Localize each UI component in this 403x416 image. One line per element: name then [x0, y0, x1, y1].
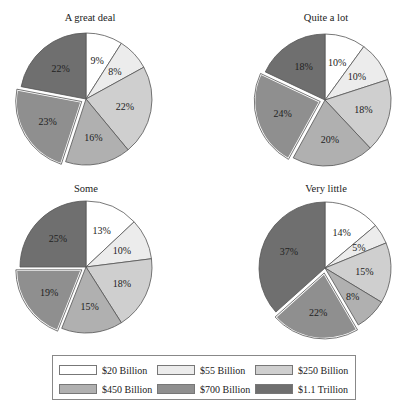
slice-label: 13% — [93, 225, 111, 236]
slice-label: 22% — [116, 101, 134, 112]
pie-some: 13%10%18%15%19%25% — [16, 201, 152, 333]
pie-charts: 9%8%22%16%23%22%10%10%18%20%24%18%13%10%… — [0, 0, 403, 416]
slice-label: 10% — [348, 71, 366, 82]
slice-label: 22% — [309, 307, 327, 318]
legend-label: $700 Billion — [200, 384, 250, 395]
slice-label: 18% — [295, 61, 313, 72]
slice-label: 16% — [84, 132, 102, 143]
slice-label: 15% — [355, 266, 373, 277]
pie-title-a-great-deal: A great deal — [20, 12, 160, 23]
pie-a-great-deal: 9%8%22%16%23%22% — [16, 33, 152, 165]
pie-title-some: Some — [16, 183, 156, 194]
legend-item-1-1-trillion: $1.1 Trillion — [255, 383, 348, 395]
slice-label: 9% — [90, 55, 103, 66]
legend-item-20-billion: $20 Billion — [59, 364, 147, 376]
legend-swatch — [255, 384, 293, 394]
slice-label: 25% — [49, 233, 67, 244]
chart-figure: 9%8%22%16%23%22%10%10%18%20%24%18%13%10%… — [0, 0, 403, 416]
legend-item-450-billion: $450 Billion — [59, 383, 152, 395]
slice-label: 5% — [352, 242, 365, 253]
slice-label: 24% — [273, 108, 291, 119]
slice-label: 37% — [280, 246, 298, 257]
legend-label: $250 Billion — [298, 365, 348, 376]
legend-label: $450 Billion — [102, 384, 152, 395]
legend-label: $1.1 Trillion — [298, 384, 348, 395]
legend-swatch — [59, 365, 97, 375]
slice-label: 10% — [328, 57, 346, 68]
legend-label: $55 Billion — [200, 365, 245, 376]
legend-item-55-billion: $55 Billion — [157, 364, 245, 376]
legend-swatch — [157, 365, 195, 375]
pie-quite-a-lot: 10%10%18%20%24%18% — [254, 34, 391, 166]
slice-label: 22% — [52, 63, 70, 74]
legend-swatch — [255, 365, 293, 375]
slice-label: 18% — [113, 278, 131, 289]
slice-label: 10% — [113, 245, 131, 256]
legend: $20 Billion $55 Billion $250 Billion $45… — [52, 355, 356, 400]
slice-label: 18% — [354, 104, 372, 115]
legend-label: $20 Billion — [102, 365, 147, 376]
pie-very-little: 14%5%15%8%22%37% — [259, 202, 391, 339]
legend-swatch — [157, 384, 195, 394]
pie-title-very-little: Very little — [256, 183, 396, 194]
slice-label: 14% — [333, 227, 351, 238]
slice-label: 8% — [108, 66, 121, 77]
slice-label: 15% — [81, 301, 99, 312]
slice-label: 23% — [38, 116, 56, 127]
slice-label: 8% — [346, 291, 359, 302]
slice-label: 19% — [40, 287, 58, 298]
legend-swatch — [59, 384, 97, 394]
slice-label: 20% — [321, 134, 339, 145]
pie-title-quite-a-lot: Quite a lot — [256, 12, 396, 23]
legend-item-250-billion: $250 Billion — [255, 364, 348, 376]
legend-item-700-billion: $700 Billion — [157, 383, 250, 395]
